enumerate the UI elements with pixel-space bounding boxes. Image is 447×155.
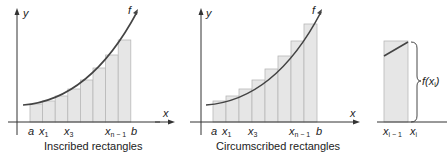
tick-x1: x1 <box>221 125 232 138</box>
panel-inscribed <box>8 8 160 135</box>
tick-xn-1: xn − 1 <box>104 125 126 138</box>
tick-b: b <box>316 125 322 137</box>
curve-label: f <box>128 4 132 16</box>
tick-x1: x1 <box>38 125 49 138</box>
tick-a: a <box>28 125 34 137</box>
tick-b: b <box>131 125 137 137</box>
tick-x3: x3 <box>63 125 74 138</box>
tick-xn-1: xn − 1 <box>288 125 310 138</box>
tick-a: a <box>211 125 217 137</box>
tick-x3: x3 <box>247 125 258 138</box>
inscribed-rectangles <box>30 40 131 122</box>
caption-inscribed: Inscribed rectangles <box>44 140 143 152</box>
curve-label: f <box>312 4 316 16</box>
y-axis-arrow-icon <box>15 8 20 15</box>
brace-icon <box>411 42 421 122</box>
curve-arrow-icon <box>317 9 322 15</box>
y-axis-label: y <box>205 7 213 19</box>
panel-circumscribed <box>155 8 360 135</box>
y-axis-arrow-icon <box>199 8 204 15</box>
riemann-sum-diagram: y f a x1 x3 xn − 1 b Inscribed rectangle… <box>0 0 447 155</box>
y-axis-label: y <box>22 7 30 19</box>
x-axis-arrow-icon <box>353 120 360 125</box>
tick-xi: xi <box>409 125 418 138</box>
caption-circumscribed: Circumscribed rectangles <box>216 140 341 152</box>
x-axis-label: x <box>162 107 169 119</box>
x-axis-label: x <box>349 107 356 119</box>
tick-xi-1: xi − 1 <box>382 125 402 138</box>
height-label: f(xi) <box>422 75 440 88</box>
curve-arrow-icon <box>133 9 138 15</box>
circumscribed-rectangles <box>213 24 317 122</box>
